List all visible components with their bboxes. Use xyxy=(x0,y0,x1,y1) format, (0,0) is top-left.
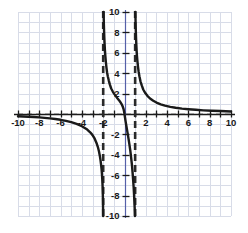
y-tick-label: -10 xyxy=(106,210,120,221)
x-tick-label: 6 xyxy=(186,117,191,128)
x-tick-label: 2 xyxy=(143,117,148,128)
x-tick-label: -6 xyxy=(56,117,64,128)
y-tick-label: -6 xyxy=(111,170,119,181)
x-tick-label: -8 xyxy=(35,117,43,128)
y-tick-label: 10 xyxy=(109,6,120,17)
x-tick-label: 4 xyxy=(164,117,170,128)
y-tick-label: -2 xyxy=(111,129,119,140)
x-tick-label: -4 xyxy=(78,117,87,128)
y-tick-label: 8 xyxy=(114,27,119,38)
y-tick-label: -4 xyxy=(111,149,120,160)
x-tick-label: -2 xyxy=(99,117,107,128)
x-tick-label: 8 xyxy=(207,117,212,128)
x-tick-label: 10 xyxy=(226,117,237,128)
coordinate-plane-chart: -10-8-6-4-2246810-10-8-6-4-2246810 xyxy=(0,0,248,233)
y-tick-label: 6 xyxy=(114,47,119,58)
y-tick-label: -8 xyxy=(111,190,119,201)
y-tick-label: 4 xyxy=(114,68,120,79)
graph-container: -10-8-6-4-2246810-10-8-6-4-2246810 xyxy=(0,0,248,233)
y-tick-label: 2 xyxy=(114,88,119,99)
x-tick-label: -10 xyxy=(11,117,25,128)
